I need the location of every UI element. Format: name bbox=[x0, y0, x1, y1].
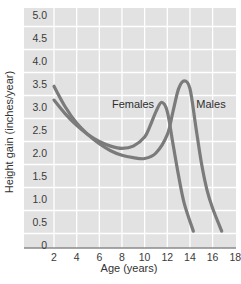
label-males: Males bbox=[196, 98, 226, 110]
y-tick-label: 2.5 bbox=[32, 124, 47, 136]
x-tick-label: 16 bbox=[207, 251, 219, 263]
height-gain-chart: 00.51.01.52.02.53.03.54.04.55.0 24681012… bbox=[0, 0, 241, 284]
y-tick-label: 0 bbox=[41, 239, 47, 251]
y-tick-label: 1.0 bbox=[32, 193, 47, 205]
y-tick-label: 2.0 bbox=[32, 147, 47, 159]
y-tick-label: 4.5 bbox=[32, 32, 47, 44]
y-tick-label: 5.0 bbox=[32, 9, 47, 21]
y-tick-label: 3.5 bbox=[32, 78, 47, 90]
y-axis-title: Height gain (inches/year) bbox=[3, 71, 15, 193]
x-tick-label: 12 bbox=[161, 251, 173, 263]
y-tick-label: 0.5 bbox=[32, 216, 47, 228]
x-tick-label: 4 bbox=[74, 251, 80, 263]
y-tick-label: 4.0 bbox=[32, 55, 47, 67]
y-tick-label: 3.0 bbox=[32, 101, 47, 113]
x-axis-title: Age (years) bbox=[101, 262, 158, 274]
x-tick-label: 2 bbox=[51, 251, 57, 263]
y-tick-label: 1.5 bbox=[32, 170, 47, 182]
label-females: Females bbox=[112, 98, 155, 110]
x-tick-label: 18 bbox=[229, 251, 241, 263]
x-tick-label: 14 bbox=[184, 251, 196, 263]
plot-background bbox=[24, 8, 236, 248]
